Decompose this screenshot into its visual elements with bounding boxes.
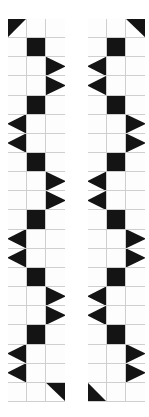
patch-cell: [46, 230, 65, 249]
patch-cell: [88, 153, 107, 172]
patch-cell: [88, 287, 107, 306]
patch-cell: [107, 96, 126, 115]
patch-cell: [107, 19, 126, 38]
patch-cell: [27, 249, 46, 268]
patch-cell: [8, 325, 27, 344]
patch-cell: [46, 96, 65, 115]
patch-cell: [46, 268, 65, 287]
patch-cell: [126, 57, 145, 76]
patch-cell: [46, 172, 65, 191]
patch-cell: [8, 345, 27, 364]
patch-cell: [107, 191, 126, 210]
patch-cell: [88, 172, 107, 191]
right-panel: [88, 19, 145, 402]
patch-cell: [8, 76, 27, 95]
patch-cell: [27, 345, 46, 364]
patch-cell: [46, 249, 65, 268]
patch-cell: [126, 115, 145, 134]
patch-cell: [27, 38, 46, 57]
patch-cell: [46, 153, 65, 172]
patch-cell: [46, 325, 65, 344]
patch-cell: [88, 230, 107, 249]
patch-cell: [8, 249, 27, 268]
patch-cell: [27, 172, 46, 191]
patch-cell: [46, 383, 65, 402]
patch-cell: [88, 383, 107, 402]
patch-cell: [27, 76, 46, 95]
patch-cell: [126, 38, 145, 57]
patch-cell: [107, 134, 126, 153]
patch-cell: [126, 383, 145, 402]
patch-cell: [27, 115, 46, 134]
patch-cell: [46, 19, 65, 38]
patch-cell: [88, 38, 107, 57]
patch-cell: [126, 249, 145, 268]
patch-cell: [46, 38, 65, 57]
patch-cell: [107, 76, 126, 95]
patch-cell: [8, 19, 27, 38]
patch-cell: [8, 191, 27, 210]
patch-cell: [107, 210, 126, 229]
patch-cell: [8, 383, 27, 402]
artwork-canvas: [0, 0, 149, 417]
patch-cell: [88, 210, 107, 229]
patch-cell: [88, 96, 107, 115]
patch-cell: [46, 115, 65, 134]
patch-cell: [126, 306, 145, 325]
patch-cell: [88, 364, 107, 383]
patch-cell: [27, 96, 46, 115]
patch-cell: [46, 76, 65, 95]
patch-cell: [27, 134, 46, 153]
patch-cell: [27, 210, 46, 229]
patch-cell: [88, 134, 107, 153]
patch-cell: [8, 364, 27, 383]
patch-cell: [46, 191, 65, 210]
patch-cell: [8, 115, 27, 134]
patch-cell: [46, 287, 65, 306]
patch-cell: [88, 249, 107, 268]
patch-cell: [8, 172, 27, 191]
patch-cell: [8, 268, 27, 287]
patch-cell: [8, 287, 27, 306]
patch-cell: [8, 57, 27, 76]
patch-cell: [126, 191, 145, 210]
patch-cell: [88, 268, 107, 287]
patch-cell: [27, 19, 46, 38]
patch-cell: [126, 364, 145, 383]
patch-cell: [88, 325, 107, 344]
patch-cell: [126, 287, 145, 306]
patch-cell: [27, 306, 46, 325]
patch-cell: [107, 268, 126, 287]
patch-cell: [46, 345, 65, 364]
patch-cell: [88, 19, 107, 38]
patch-cell: [126, 172, 145, 191]
patch-cell: [107, 115, 126, 134]
patch-cell: [107, 57, 126, 76]
patch-cell: [126, 345, 145, 364]
patch-cell: [46, 364, 65, 383]
patch-cell: [107, 249, 126, 268]
patch-cell: [27, 191, 46, 210]
patch-cell: [27, 325, 46, 344]
patch-cell: [126, 153, 145, 172]
patch-cell: [126, 210, 145, 229]
patch-cell: [27, 153, 46, 172]
patch-cell: [27, 383, 46, 402]
patch-cell: [107, 345, 126, 364]
patch-cell: [8, 96, 27, 115]
patch-cell: [46, 306, 65, 325]
patch-cell: [126, 325, 145, 344]
patch-cell: [46, 210, 65, 229]
patch-cell: [126, 19, 145, 38]
patch-cell: [27, 57, 46, 76]
patch-cell: [8, 306, 27, 325]
patch-cell: [88, 306, 107, 325]
patch-cell: [126, 134, 145, 153]
patch-cell: [46, 57, 65, 76]
patch-cell: [107, 383, 126, 402]
patch-cell: [8, 210, 27, 229]
patch-cell: [27, 364, 46, 383]
patch-cell: [88, 115, 107, 134]
patch-cell: [107, 364, 126, 383]
patch-cell: [88, 57, 107, 76]
